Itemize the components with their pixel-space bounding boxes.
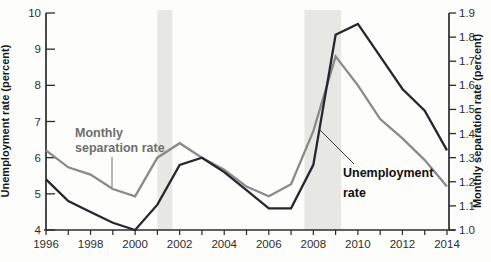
left-axis-tick-label: 9 — [35, 43, 41, 55]
left-axis-tick-label: 4 — [35, 224, 42, 236]
left-axis-tick-label: 6 — [35, 152, 41, 164]
x-axis-tick-label: 2012 — [390, 238, 416, 250]
chart-canvas: 456789101.01.11.21.31.41.51.61.71.81.919… — [0, 0, 491, 262]
separation-rate-annotation-line1: Monthly — [75, 126, 123, 140]
unemployment-rate-annotation-line1: Unemployment — [343, 166, 434, 180]
unemployment-rate-annotation-line2: rate — [343, 186, 366, 200]
left-axis-tick-label: 5 — [35, 188, 41, 200]
x-axis-tick-label: 1996 — [33, 238, 59, 250]
right-axis-tick-label: 1.9 — [459, 7, 475, 19]
x-axis-tick-label: 1998 — [78, 238, 104, 250]
left-axis-tick-label: 8 — [35, 79, 41, 91]
x-axis-tick-label: 2008 — [301, 238, 327, 250]
x-axis-tick-label: 2010 — [345, 238, 371, 250]
x-axis-tick-label: 2004 — [211, 238, 237, 250]
recession-band — [157, 10, 172, 230]
left-axis-tick-label: 7 — [35, 116, 41, 128]
x-axis-tick-label: 2002 — [167, 238, 193, 250]
x-axis-tick-label: 2006 — [256, 238, 282, 250]
separation-rate-annotation-line2: separation rate — [75, 141, 165, 155]
left-axis-title: Unemployment rate (percent) — [0, 44, 11, 197]
recession-band — [304, 10, 341, 230]
left-axis-tick-label: 10 — [28, 7, 41, 19]
right-axis-title: Monthly separation rate (percent) — [471, 34, 483, 209]
right-axis-tick-label: 1.0 — [459, 224, 475, 236]
figure: 456789101.01.11.21.31.41.51.61.71.81.919… — [0, 0, 491, 262]
x-axis-tick-label: 2000 — [122, 238, 148, 250]
x-axis-tick-label: 2014 — [434, 238, 460, 250]
